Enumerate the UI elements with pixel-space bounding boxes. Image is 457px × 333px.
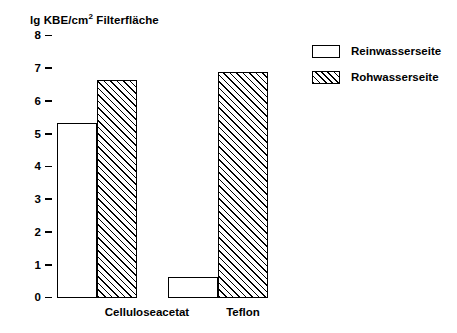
y-axis-tick-label: 0 [35,292,41,304]
y-axis-tick-0: 0 [0,291,52,305]
y-axis-tick-label: 7 [35,63,41,75]
x-axis-label-teflon: Teflon [226,306,260,318]
bar-chart: lg KBE/cm2 Filterfläche 012345678 Cellul… [0,0,457,333]
bar-celluloseacetat-reinwasserseite [57,123,97,298]
y-axis-tick-4: 4 [0,160,52,174]
y-axis-tick-label: 4 [35,161,41,173]
legend: Reinwasserseite Rohwasserseite [312,40,457,92]
y-axis-tick-8: 8 [0,29,52,43]
bar-teflon-reinwasserseite [168,277,218,298]
y-axis-tick-label: 5 [35,129,41,141]
y-axis-tick-2: 2 [0,226,52,240]
y-axis-tick-6: 6 [0,95,52,109]
y-axis-tick-label: 8 [35,30,41,42]
legend-swatch-hatched-icon [312,71,340,84]
y-axis-tick-label: 2 [35,227,41,239]
legend-label-reinwasserseite: Reinwasserseite [351,45,441,57]
y-axis-tick-label: 3 [35,194,41,206]
legend-label-rohwasserseite: Rohwasserseite [351,71,439,83]
y-axis-tick-3: 3 [0,193,52,207]
x-axis-label-celluloseacetat: Celluloseacetat [105,306,189,318]
bar-celluloseacetat-rohwasserseite [97,80,137,298]
y-axis-title-suffix: Filterfläche [93,14,159,26]
y-axis-tick-7: 7 [0,62,52,76]
y-axis-tick-label: 1 [35,260,41,272]
legend-swatch-empty-icon [312,45,340,58]
y-axis-tick-label: 6 [35,96,41,108]
y-axis-tick-5: 5 [0,127,52,141]
legend-item-reinwasserseite: Reinwasserseite [312,40,457,62]
y-axis-tick-1: 1 [0,258,52,272]
legend-item-rohwasserseite: Rohwasserseite [312,66,457,88]
bar-teflon-rohwasserseite [218,72,268,298]
